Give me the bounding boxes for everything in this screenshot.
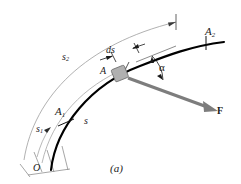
figure-caption: (a) (110, 163, 123, 174)
ds-left-arrowhead (106, 56, 113, 60)
label-arc-s2: s2 (62, 52, 69, 63)
arc-s2-arrowhead (168, 22, 176, 27)
label-point-A1: A1 (55, 106, 65, 118)
label-arc-s: s (84, 116, 88, 126)
label-arc-element-ds: ds (106, 45, 115, 55)
extension-line-inner (62, 146, 68, 170)
arc-s2-guide (24, 22, 176, 160)
arc-s1-arrowhead (44, 127, 51, 133)
force-vector-arrowhead (203, 101, 218, 112)
label-origin-O: O (33, 163, 40, 173)
label-angle-alpha: α (159, 62, 165, 73)
label-point-A: A (100, 66, 106, 76)
label-force-F: F (217, 106, 223, 116)
label-arc-s1: s1 (36, 124, 43, 135)
label-point-A2: A2 (205, 26, 215, 38)
force-vector-shaft (128, 78, 210, 108)
